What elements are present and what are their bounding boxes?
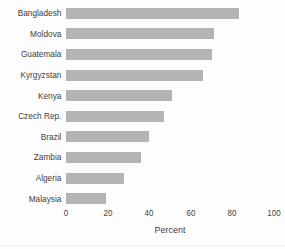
- bar-track: [66, 131, 274, 142]
- x-axis: 020406080100: [66, 208, 274, 219]
- bar-track: [66, 173, 274, 184]
- bar-track: [66, 90, 274, 101]
- bar-track: [66, 28, 274, 39]
- bar-rows: BangladeshMoldovaGuatemalaKyrgyzstanKeny…: [0, 3, 278, 209]
- x-tick-label: 40: [145, 208, 154, 218]
- x-axis-title: Percent: [72, 224, 268, 235]
- x-tick-label: 60: [186, 208, 195, 218]
- bar-row: Kenya: [0, 85, 278, 106]
- bar-track: [66, 193, 274, 204]
- category-label: Guatemala: [5, 49, 66, 59]
- category-label: Algeria: [5, 173, 66, 183]
- bar: [66, 8, 239, 19]
- figure-bottom-edge: [0, 245, 285, 246]
- category-label: Kyrgyzstan: [5, 70, 66, 80]
- category-label: Czech Rep.: [5, 111, 66, 121]
- bar-row: Guatemala: [0, 44, 278, 65]
- bar-row: Kyrgyzstan: [0, 65, 278, 86]
- bar-row: Czech Rep.: [0, 106, 278, 127]
- bar: [66, 28, 214, 39]
- bar-track: [66, 49, 274, 60]
- bar-row: Moldova: [0, 24, 278, 45]
- x-tick-label: 0: [64, 208, 68, 218]
- category-label: Moldova: [5, 29, 66, 39]
- bar-row: Brazil: [0, 127, 278, 148]
- bar-row: Algeria: [0, 168, 278, 189]
- bar-track: [66, 152, 274, 163]
- bar-row: Malaysia: [0, 188, 278, 209]
- x-tick-label: 80: [228, 208, 237, 218]
- bar: [66, 193, 106, 204]
- bar: [66, 111, 164, 122]
- bar: [66, 90, 172, 101]
- category-label: Brazil: [5, 132, 66, 142]
- x-tick-label: 20: [103, 208, 112, 218]
- bar: [66, 70, 203, 81]
- bar-track: [66, 70, 274, 81]
- bar: [66, 49, 212, 60]
- category-label: Malaysia: [5, 194, 66, 204]
- x-tick-label: 100: [267, 208, 280, 218]
- bar-chart-figure: BangladeshMoldovaGuatemalaKyrgyzstanKeny…: [0, 0, 285, 249]
- category-label: Bangladesh: [5, 8, 66, 18]
- bar: [66, 173, 124, 184]
- bar-row: Zambia: [0, 147, 278, 168]
- bar: [66, 131, 149, 142]
- bar: [66, 152, 141, 163]
- bar-track: [66, 8, 274, 19]
- bar-track: [66, 111, 274, 122]
- bar-row: Bangladesh: [0, 3, 278, 24]
- category-label: Zambia: [5, 152, 66, 162]
- category-label: Kenya: [5, 91, 66, 101]
